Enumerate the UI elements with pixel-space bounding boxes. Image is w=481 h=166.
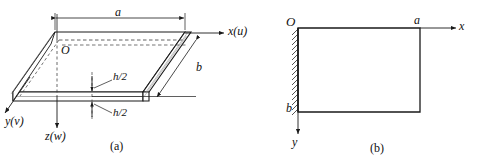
axis-label-z-w: z(w) bbox=[45, 130, 66, 142]
dimension-label-b: b bbox=[196, 61, 202, 73]
thickness-label-upper: h/2 bbox=[113, 71, 127, 82]
plate-plan-rectangle bbox=[298, 28, 420, 112]
panel-a-caption: (a) bbox=[110, 140, 123, 152]
axis-label-x-u: x(u) bbox=[228, 25, 247, 37]
clamped-edge-hatching bbox=[292, 28, 298, 115]
axis-label-x: x bbox=[459, 20, 464, 32]
thickness-label-lower: h/2 bbox=[113, 107, 127, 118]
dimension-label-a: a bbox=[115, 6, 121, 18]
axis-label-y: y bbox=[292, 136, 297, 148]
panel-b-caption: (b) bbox=[370, 142, 384, 154]
origin-label-o: O bbox=[61, 44, 70, 56]
origin-label-o: O bbox=[286, 15, 295, 28]
corner-label-a: a bbox=[414, 14, 420, 26]
corner-label-b: b bbox=[286, 102, 292, 114]
panel-b-linework bbox=[292, 28, 456, 134]
axis-label-y-v: y(v) bbox=[5, 115, 24, 127]
figure-container: a b O x(u) y(v) z(w) h/2 h/2 (a) O a b x… bbox=[0, 0, 481, 166]
